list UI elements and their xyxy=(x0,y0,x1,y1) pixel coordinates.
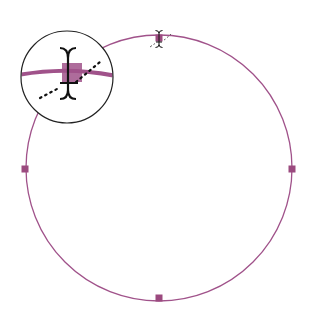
diagram-canvas xyxy=(0,0,318,321)
magnified-anchor-point xyxy=(62,63,82,82)
anchor-point-right[interactable] xyxy=(289,166,296,173)
anchor-point-left[interactable] xyxy=(22,166,29,173)
anchor-point-bottom[interactable] xyxy=(156,295,163,302)
magnifier-loupe xyxy=(18,31,116,123)
